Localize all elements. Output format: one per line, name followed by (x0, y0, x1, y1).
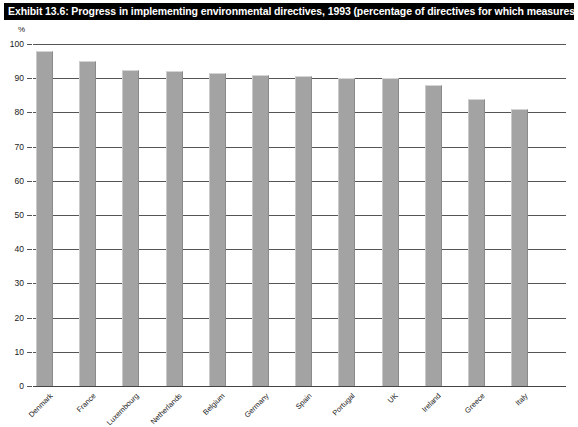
exhibit-title-bar: Exhibit 13.6: Progress in implementing e… (4, 3, 574, 20)
bar (511, 109, 528, 386)
x-axis-label: Belgium (202, 392, 226, 416)
y-tick-mark (27, 249, 32, 250)
bar (36, 51, 53, 386)
y-tick-label: 80 (15, 108, 24, 117)
y-axis-unit-label: % (18, 26, 25, 34)
x-axis-label: UK (387, 392, 400, 405)
y-tick-label: 40 (15, 245, 24, 254)
y-tick-label: 90 (15, 74, 24, 83)
bar (338, 78, 355, 386)
y-tick-mark (27, 318, 32, 319)
y-tick-label: 60 (15, 177, 24, 186)
x-axis-label: Greece (463, 392, 486, 415)
bar (425, 85, 442, 386)
x-axis-label: Germany (243, 392, 270, 419)
y-tick-label: 70 (15, 142, 24, 151)
y-tick-label: 0 (19, 382, 24, 391)
bar (382, 78, 399, 386)
bar (295, 76, 312, 386)
y-tick-label: 30 (15, 279, 24, 288)
y-gridline (33, 386, 566, 387)
y-tick-mark (27, 283, 32, 284)
y-tick-label: 10 (15, 348, 24, 357)
y-tick-mark (27, 112, 32, 113)
plot-canvas: 0102030405060708090100DenmarkFranceLuxem… (33, 22, 566, 422)
bar (166, 71, 183, 386)
bar (79, 61, 96, 386)
bar (122, 70, 139, 386)
y-tick-mark (27, 352, 32, 353)
chart-area: % 0102030405060708090100DenmarkFranceLux… (0, 22, 578, 422)
x-axis-label: Netherlands (149, 392, 183, 426)
x-axis-label: Spain (294, 392, 313, 411)
y-tick-mark (27, 44, 32, 45)
bar (209, 73, 226, 386)
x-axis-label: Ireland (421, 392, 443, 414)
y-tick-label: 100 (10, 40, 24, 49)
bar (468, 99, 485, 386)
bar (252, 75, 269, 386)
y-tick-mark (27, 78, 32, 79)
x-axis-label: Italy (514, 392, 529, 407)
y-tick-mark (27, 181, 32, 182)
x-axis-label: France (75, 392, 97, 414)
y-tick-label: 50 (15, 211, 24, 220)
y-tick-mark (27, 215, 32, 216)
x-axis-label: Denmark (27, 392, 54, 419)
y-gridline (33, 44, 566, 45)
y-tick-mark (27, 386, 32, 387)
x-axis-label: Portugal (331, 392, 356, 417)
x-axis-label: Luxembourg (105, 392, 140, 427)
y-tick-mark (27, 147, 32, 148)
y-tick-label: 20 (15, 313, 24, 322)
page-title: Exhibit 13.6: Progress in implementing e… (8, 6, 578, 17)
